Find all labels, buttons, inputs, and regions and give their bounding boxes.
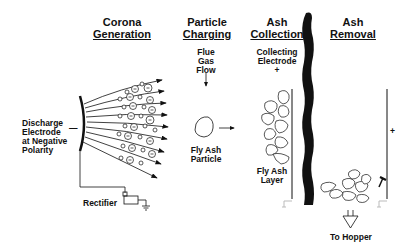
hopper-arrow-icon [343, 210, 358, 228]
fly-ash-particle-label: Fly Ash Particle [186, 146, 226, 164]
label-line: Particle [186, 155, 226, 164]
removed-ash-icon [321, 170, 371, 203]
ground-icon [282, 201, 292, 207]
collecting-electrode-label: Collecting Electrode + [254, 48, 300, 75]
to-hopper-label: To Hopper [325, 233, 377, 242]
title-line: Corona [82, 16, 162, 28]
stage-title-ash-removal: Ash Removal [320, 16, 386, 40]
rectifier-label: Rectifier [83, 199, 117, 208]
collecting-plate-icon [302, 13, 314, 205]
label-line: Layer [254, 176, 290, 185]
discharge-electrode-label: Discharge Electrode at Negative Polarity [22, 119, 67, 155]
fly-ash-particle-icon [195, 117, 213, 137]
title-line: Particle [176, 16, 238, 28]
flue-gas-flow-label: Flue Gas Flow [192, 48, 220, 75]
negative-sign: — [69, 124, 78, 133]
title-line: Charging [176, 28, 238, 40]
stage-title-ash-collection: Ash Collection [246, 16, 308, 40]
label-line: Polarity [22, 146, 67, 155]
stage-title-particle-charging: Particle Charging [176, 16, 238, 40]
removal-positive-sign: + [390, 127, 395, 136]
ground-icon [377, 201, 387, 207]
title-line: Generation [82, 28, 162, 40]
rapper-hammer-icon [379, 177, 386, 187]
title-line: Ash [320, 16, 386, 28]
fly-ash-layer-icon [262, 91, 290, 164]
title-line: Ash [246, 16, 308, 28]
title-line: Removal [320, 28, 386, 40]
title-line: Collection [246, 28, 308, 40]
stage-title-corona-generation: Corona Generation [82, 16, 162, 40]
label-line: Flow [192, 66, 220, 75]
discharge-electrode-icon [80, 96, 84, 151]
fly-ash-layer-label: Fly Ash Layer [254, 167, 290, 185]
positive-sign: + [254, 66, 300, 75]
